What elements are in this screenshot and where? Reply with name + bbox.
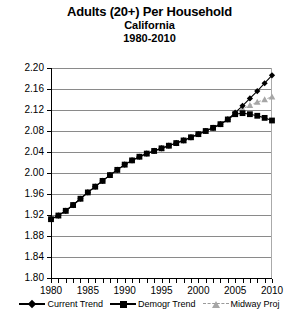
x-axis-tick-label: 1980 xyxy=(31,285,71,296)
diamond-marker xyxy=(19,299,45,309)
triangle-marker xyxy=(203,299,229,309)
plot-area xyxy=(51,68,272,278)
y-axis-tick-label: 2.08 xyxy=(0,126,44,136)
x-axis-tick-mark xyxy=(265,279,266,283)
data-point xyxy=(269,118,275,124)
x-axis-tick-label: 2005 xyxy=(215,285,255,296)
data-series-layer xyxy=(51,68,272,279)
y-axis-tick-label: 2.00 xyxy=(0,168,44,178)
x-axis-tick-mark xyxy=(80,279,81,283)
legend-item-demogr-trend[interactable]: Demogr Trend xyxy=(110,299,196,309)
legend-item-midway-proj[interactable]: Midway Proj xyxy=(203,299,280,309)
x-axis-tick-label: 1995 xyxy=(142,285,182,296)
data-point xyxy=(269,94,276,100)
x-axis-tick-mark xyxy=(206,279,207,283)
x-axis-tick-mark xyxy=(132,279,133,283)
y-axis-tick-label: 2.16 xyxy=(0,84,44,94)
x-axis-tick-mark xyxy=(73,279,74,283)
x-axis-tick-label: 1990 xyxy=(105,285,145,296)
legend-symbol xyxy=(28,300,36,308)
legend-item-current-trend[interactable]: Current Trend xyxy=(19,299,103,309)
chart-subtitle-range: 1980-2010 xyxy=(0,32,299,45)
y-axis-tick-label: 1.80 xyxy=(0,273,44,283)
x-axis-tick-label: 1985 xyxy=(68,285,108,296)
data-point xyxy=(262,115,268,121)
x-axis-tick-mark xyxy=(184,279,185,283)
x-axis-tick-mark xyxy=(66,279,67,283)
square-marker xyxy=(110,299,136,309)
page-title: Adults (20+) Per Household xyxy=(0,4,299,19)
x-axis-tick-mark xyxy=(191,279,192,283)
x-axis-tick-mark xyxy=(213,279,214,283)
x-axis-tick-mark xyxy=(176,279,177,283)
x-axis-tick-mark xyxy=(228,279,229,283)
y-axis-tick-label: 2.04 xyxy=(0,147,44,157)
series-line xyxy=(51,97,272,219)
y-axis-tick-label: 1.92 xyxy=(0,210,44,220)
x-axis-tick-mark xyxy=(125,279,126,283)
legend-label: Demogr Trend xyxy=(138,299,196,309)
legend-label: Current Trend xyxy=(47,299,103,309)
y-axis-tick-label: 1.88 xyxy=(0,231,44,241)
x-axis-tick-mark xyxy=(154,279,155,283)
data-point xyxy=(261,96,268,102)
x-axis-tick-mark xyxy=(147,279,148,283)
x-axis-tick-mark xyxy=(110,279,111,283)
chart-titles: Adults (20+) Per Household California 19… xyxy=(0,4,299,45)
x-axis-tick-mark xyxy=(58,279,59,283)
data-point xyxy=(247,102,254,108)
x-axis-tick-mark xyxy=(139,279,140,283)
x-axis-tick-mark xyxy=(103,279,104,283)
x-axis-tick-label: 2000 xyxy=(178,285,218,296)
y-axis-tick-label: 1.96 xyxy=(0,189,44,199)
x-axis-tick-mark xyxy=(220,279,221,283)
legend-label: Midway Proj xyxy=(231,299,280,309)
x-axis-tick-label: 2010 xyxy=(252,285,292,296)
x-axis-tick-mark xyxy=(272,279,273,283)
data-point xyxy=(247,111,253,117)
y-axis-tick-label: 1.84 xyxy=(0,252,44,262)
x-axis-tick-mark xyxy=(169,279,170,283)
legend-symbol xyxy=(212,301,220,308)
data-point xyxy=(254,113,260,119)
x-axis-tick-mark xyxy=(250,279,251,283)
x-axis-tick-mark xyxy=(243,279,244,283)
chart-container: Adults (20+) Per Household California 19… xyxy=(0,0,299,327)
x-axis-tick-mark xyxy=(51,279,52,283)
data-point xyxy=(240,110,246,116)
legend-symbol xyxy=(120,301,127,308)
x-axis-tick-mark xyxy=(198,279,199,283)
x-axis-tick-mark xyxy=(88,279,89,283)
series-line xyxy=(51,113,272,219)
y-axis-tick-label: 2.20 xyxy=(0,63,44,73)
chart-legend: Current TrendDemogr TrendMidway Proj xyxy=(0,299,299,309)
x-axis-tick-mark xyxy=(95,279,96,283)
x-axis-tick-mark xyxy=(117,279,118,283)
x-axis-tick-mark xyxy=(235,279,236,283)
y-axis-tick-label: 2.12 xyxy=(0,105,44,115)
series-current-trend xyxy=(48,72,275,222)
x-axis-tick-mark xyxy=(257,279,258,283)
chart-subtitle: California xyxy=(0,19,299,32)
x-axis-tick-mark xyxy=(162,279,163,283)
series-demogr-trend xyxy=(48,110,275,222)
